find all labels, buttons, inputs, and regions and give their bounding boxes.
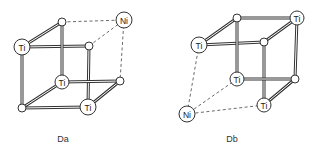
atom-ni: Ni: [116, 12, 132, 28]
atom-ti: Ti: [257, 98, 271, 112]
dashed-bond: [187, 45, 199, 114]
captions: Da Db: [57, 134, 238, 144]
atom-circle: [260, 38, 268, 46]
lattice-site: [233, 14, 241, 22]
atom-circle: [291, 75, 299, 83]
dashed-bond: [187, 105, 264, 114]
lattice-site: [18, 104, 26, 112]
dashed-bond: [62, 20, 124, 22]
lattice-site: [116, 77, 124, 85]
atom-circle: [233, 14, 241, 22]
atom-ti: Ti: [230, 72, 244, 86]
atom-ti: Ti: [290, 11, 304, 25]
caption-db: Db: [226, 134, 238, 144]
atom-circle: [18, 104, 26, 112]
atom-ti: Ti: [14, 39, 30, 55]
atom-ti: Ti: [191, 37, 207, 53]
atom-label: Ti: [19, 43, 26, 53]
atoms: NiTiTiTiTiTiTiNiTi: [14, 11, 304, 122]
lattice-site: [260, 38, 268, 46]
atom-circle: [85, 42, 93, 50]
atom-circle: [58, 18, 66, 26]
atom-circle: [116, 77, 124, 85]
atom-ti: Ti: [55, 75, 69, 89]
atom-label: Ni: [183, 110, 191, 120]
caption-da: Da: [57, 134, 69, 144]
atom-label: Ti: [85, 103, 92, 113]
atom-label: Ti: [59, 78, 66, 88]
atom-label: Ti: [196, 41, 203, 51]
dashed-bond: [120, 20, 124, 81]
lattice-site: [291, 75, 299, 83]
atom-label: Ti: [234, 75, 241, 85]
atom-ti: Ti: [80, 99, 96, 115]
atom-label: Ti: [261, 101, 268, 111]
lattice-site: [58, 18, 66, 26]
lattice-site: [85, 42, 93, 50]
atom-label: Ti: [294, 14, 301, 24]
crystal-structure-diagrams: NiTiTiTiTiTiTiNiTi Da Db: [0, 0, 320, 150]
atom-ni: Ni: [179, 106, 195, 122]
bond-lines: [22, 18, 297, 114]
atom-label: Ni: [120, 16, 128, 26]
